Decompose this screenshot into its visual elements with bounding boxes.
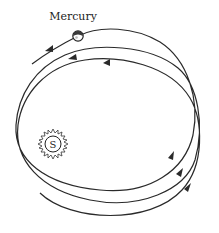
arrow-icon	[176, 168, 183, 177]
mercury-label: Mercury	[49, 10, 98, 23]
arrow-icon	[45, 45, 53, 52]
sun-icon: S	[38, 129, 68, 159]
sun-label: S	[50, 139, 57, 150]
mercury-orbit-diagram: Mercury S	[0, 0, 219, 233]
orbit-path	[16, 29, 200, 215]
arrow-icon	[103, 59, 110, 66]
mercury-planet-icon	[73, 31, 83, 41]
arrow-icon	[168, 151, 174, 160]
arrow-icon	[68, 54, 77, 60]
arrow-icon	[184, 183, 191, 192]
